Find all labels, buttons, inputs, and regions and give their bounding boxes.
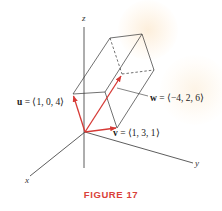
vector-w-symbol: w xyxy=(150,93,157,103)
z-axis-label: z xyxy=(82,13,86,23)
x-axis xyxy=(30,132,85,176)
vector-v-value: = ⟨1, 3, 1⟩ xyxy=(118,128,160,138)
w-leader-line xyxy=(117,88,148,96)
x-axis-label: x xyxy=(25,175,29,185)
vector-w-value: = ⟨−4, 2, 6⟩ xyxy=(157,93,204,103)
y-axis-label: y xyxy=(195,158,199,168)
vector-v-label: v = ⟨1, 3, 1⟩ xyxy=(113,127,160,138)
vector-v-arrow xyxy=(85,128,116,132)
figure-caption: FIGURE 17 xyxy=(0,189,222,200)
hidden-edges xyxy=(110,38,154,74)
vector-w-label: w = ⟨−4, 2, 6⟩ xyxy=(150,92,204,103)
vector-u-label: u = ⟨1, 0, 4⟩ xyxy=(17,96,64,107)
vector-u-arrow xyxy=(74,96,86,132)
vector-u-value: = ⟨1, 0, 4⟩ xyxy=(22,97,64,107)
